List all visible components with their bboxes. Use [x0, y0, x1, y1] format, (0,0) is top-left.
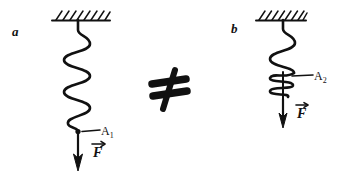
a1-leader-line	[82, 130, 100, 132]
physics-spring-comparison-figure: a b A1 A2 F F	[0, 0, 338, 183]
force-label-b: F	[297, 107, 306, 121]
point-label-a2: A2	[314, 70, 327, 85]
extended-spring-a	[64, 20, 90, 131]
hatched-ceiling-b	[256, 11, 307, 21]
point-label-a2-subscript: 2	[323, 76, 327, 85]
point-label-a1-subscript: 1	[110, 131, 114, 140]
a2-leader-line	[292, 75, 313, 76]
force-arrow-a	[74, 134, 83, 171]
panel-letter-b: b	[231, 22, 238, 35]
hatched-ceiling-a	[52, 11, 110, 21]
point-label-a2-base: A	[314, 69, 323, 83]
compressed-spring-b-loose-section	[270, 20, 295, 73]
force-arrow-b	[279, 99, 287, 128]
not-equal-icon	[152, 70, 187, 109]
point-label-a1-base: A	[101, 124, 110, 138]
compressed-spring-b-tight-section	[270, 73, 294, 97]
panel-letter-a: a	[12, 25, 19, 38]
figure-drawing-canvas	[0, 0, 338, 183]
point-label-a1: A1	[101, 125, 114, 140]
force-label-a: F	[93, 146, 102, 160]
